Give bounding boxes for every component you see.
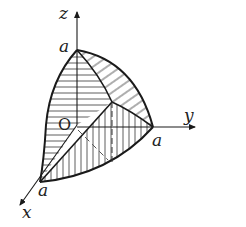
z-intercept-label: a [59,36,69,56]
y-axis-label: y [183,105,194,125]
diagram-canvas: z a O y a a x [0,0,246,227]
z-axis-label: z [58,3,69,23]
origin-label: O [58,115,71,134]
y-intercept-label: a [152,130,162,150]
x-axis-label: x [22,202,32,222]
x-intercept-label: a [38,180,48,200]
